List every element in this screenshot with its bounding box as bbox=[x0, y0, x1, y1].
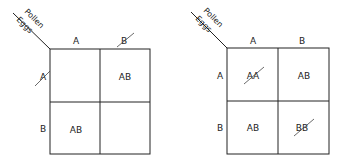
column-header-a: A bbox=[250, 36, 257, 46]
left-punnett-square: Pollen Eggs A B A B AB AB bbox=[13, 7, 150, 154]
cell-a-b: AB bbox=[298, 71, 310, 81]
row-header-b: B bbox=[217, 123, 223, 133]
row-header-a: A bbox=[217, 71, 224, 81]
cell-a-b: AB bbox=[119, 72, 131, 82]
right-punnett-square: Pollen Eggs A B A B AA AB AB BB bbox=[191, 6, 329, 154]
column-header-a: A bbox=[73, 36, 80, 46]
cell-b-a: AB bbox=[70, 125, 82, 135]
column-header-b: B bbox=[299, 36, 305, 46]
cell-b-b: BB bbox=[296, 123, 308, 133]
row-header-b: B bbox=[40, 124, 46, 134]
punnett-squares-figure: Pollen Eggs A B A B AB AB Pollen Eggs A … bbox=[0, 0, 340, 162]
cell-b-a: AB bbox=[247, 123, 259, 133]
